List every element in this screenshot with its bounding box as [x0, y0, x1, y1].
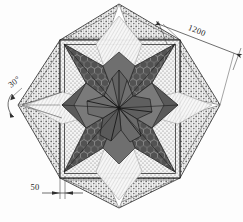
drawing-sheet: 1200 50 30°: [0, 0, 243, 222]
technical-drawing-canvas: 1200 50 30°: [0, 0, 243, 222]
dim-label-50: 50: [30, 182, 39, 192]
